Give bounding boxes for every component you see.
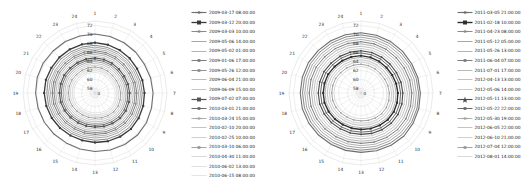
legend-item[interactable]: 2011-02-18 10:00:00 — [457, 18, 531, 28]
svg-text:3: 3 — [133, 22, 136, 27]
legend-item-label: 2010-03-01 21:00:00 — [209, 104, 255, 114]
legend-item[interactable]: 2009-05-02 01:00:00 — [191, 46, 266, 56]
svg-text:16: 16 — [301, 147, 307, 152]
legend-item[interactable]: 2011-06-04 07:00:00 — [457, 56, 531, 66]
svg-text:1: 1 — [94, 11, 97, 16]
left-chart-legend: 2009-03-17 08:00:002009-03-12 20:00:0020… — [190, 0, 266, 181]
legend-item-label: 2012-05-22 22:00:00 — [475, 104, 521, 114]
legend-item[interactable]: 2009-01-06 17:00:00 — [191, 56, 266, 66]
legend-item-label: 2009-03-12 20:00:00 — [209, 18, 255, 28]
svg-text:62: 62 — [352, 68, 358, 73]
svg-text:3: 3 — [399, 22, 402, 27]
svg-text:17: 17 — [289, 130, 295, 135]
legend-item-label: 2011-07-01 17:00:00 — [475, 66, 521, 76]
svg-text:7: 7 — [173, 91, 176, 96]
legend-item[interactable]: 2012-05-11 13:00:00 — [457, 94, 531, 104]
legend-item-label: 2010-03-10 06:00:00 — [209, 142, 255, 152]
svg-text:22: 22 — [36, 34, 42, 39]
svg-text:16: 16 — [36, 147, 42, 152]
svg-text:4: 4 — [150, 34, 153, 39]
svg-text:13: 13 — [92, 170, 98, 175]
legend-item[interactable]: 2012-04-13 13:00:00 — [457, 75, 531, 85]
legend-item[interactable]: 2009-03-03 10:00:00 — [191, 27, 266, 37]
legend-line-marker-icon — [457, 104, 473, 113]
legend-item-label: 2011-06-04 07:00:00 — [475, 56, 521, 66]
legend-item-label: 2009-03-17 08:00:00 — [209, 8, 255, 18]
legend-item-label: 2010-02-10 20:00:00 — [209, 123, 255, 133]
legend-item[interactable]: 2009-03-12 20:00:00 — [191, 18, 266, 28]
legend-item-label: 2011-02-18 10:00:00 — [475, 18, 521, 28]
legend-item[interactable]: 2009-06-09 15:00:00 — [191, 85, 266, 95]
legend-item[interactable]: 2011-07-01 17:00:00 — [457, 66, 531, 76]
legend-item-label: 2012-04-13 13:00:00 — [475, 75, 521, 85]
svg-text:10: 10 — [148, 147, 154, 152]
legend-item-label: 2011-05-12 05:00:00 — [475, 37, 521, 47]
legend-item[interactable]: 2011-03-05 21:00:00 — [457, 8, 531, 18]
svg-text:66: 66 — [87, 50, 93, 55]
svg-text:11: 11 — [132, 159, 138, 164]
svg-text:9: 9 — [162, 130, 165, 135]
legend-item[interactable]: 2009-07-02 07:00:00 — [191, 94, 266, 104]
legend-item-label: 2010-02-25 10:00:00 — [209, 133, 255, 143]
svg-text:21: 21 — [289, 51, 295, 56]
legend-item[interactable]: 2010-04-30 11:00:00 — [191, 152, 266, 162]
svg-text:14: 14 — [72, 167, 78, 172]
legend-item[interactable]: 2010-02-10 20:00:00 — [191, 123, 266, 133]
svg-text:6: 6 — [170, 70, 173, 75]
legend-item[interactable]: 2011-04-23 08:00:00 — [457, 27, 531, 37]
legend-item[interactable]: 2012-06-10 21:00:00 — [457, 133, 531, 143]
legend-line-marker-icon — [457, 152, 473, 161]
legend-item[interactable]: 2010-06-15 08:00:00 — [191, 171, 266, 181]
svg-text:5: 5 — [428, 51, 431, 56]
svg-text:7: 7 — [439, 91, 442, 96]
svg-text:1: 1 — [359, 11, 362, 16]
legend-item-label: 2011-05-26 13:00:00 — [475, 46, 521, 56]
svg-text:58: 58 — [87, 86, 93, 91]
svg-text:72: 72 — [352, 23, 358, 28]
legend-line-marker-icon — [191, 95, 207, 104]
legend-item[interactable]: 2009-06-04 21:00:00 — [191, 75, 266, 85]
legend-item[interactable]: 2011-05-26 13:00:00 — [457, 46, 531, 56]
svg-text:13: 13 — [358, 170, 364, 175]
legend-item-label: 2011-04-23 08:00:00 — [475, 27, 521, 37]
legend-item[interactable]: 2012-05-06 14:00:00 — [457, 85, 531, 95]
legend-item[interactable]: 2011-05-12 05:00:00 — [457, 37, 531, 47]
svg-text:72: 72 — [87, 23, 93, 28]
legend-item-label: 2009-06-04 21:00:00 — [209, 75, 255, 85]
svg-text:9: 9 — [428, 130, 431, 135]
svg-text:19: 19 — [278, 91, 284, 96]
right-polar-panel: 5860626466687072012345678910111213141516… — [266, 0, 531, 190]
legend-line-marker-icon — [457, 37, 473, 46]
svg-text:23: 23 — [318, 22, 324, 27]
legend-line-marker-icon — [191, 56, 207, 65]
legend-item[interactable]: 2009-03-17 08:00:00 — [191, 8, 266, 18]
legend-item[interactable]: 2010-03-10 06:00:00 — [191, 142, 266, 152]
legend-item[interactable]: 2012-05-22 22:00:00 — [457, 104, 531, 114]
svg-text:14: 14 — [337, 167, 343, 172]
legend-item-label: 2009-01-06 17:00:00 — [209, 56, 255, 66]
legend-item[interactable]: 2012-06-05 22:00:00 — [457, 123, 531, 133]
legend-item[interactable]: 2009-05-26 12:00:00 — [191, 66, 266, 76]
svg-text:11: 11 — [397, 159, 403, 164]
legend-item[interactable]: 2012-07-04 12:00:00 — [457, 142, 531, 152]
legend-item[interactable]: 2010-03-01 21:00:00 — [191, 104, 266, 114]
svg-text:10: 10 — [414, 147, 420, 152]
svg-text:58: 58 — [352, 86, 358, 91]
legend-line-marker-icon — [457, 123, 473, 132]
legend-line-marker-icon — [457, 47, 473, 56]
legend-item[interactable]: 2012-08-01 14:00:00 — [457, 152, 531, 162]
legend-line-marker-icon — [191, 37, 207, 46]
svg-text:70: 70 — [352, 32, 358, 37]
legend-line-marker-icon — [457, 114, 473, 123]
legend-line-marker-icon — [457, 95, 473, 104]
legend-item[interactable]: 2010-03-24 15:00:00 — [191, 114, 266, 124]
legend-item[interactable]: 2010-06-02 13:00:00 — [191, 162, 266, 172]
svg-text:4: 4 — [415, 34, 418, 39]
svg-text:68: 68 — [87, 41, 93, 46]
svg-text:5: 5 — [162, 51, 165, 56]
legend-item[interactable]: 2012-05-30 19:00:00 — [457, 114, 531, 124]
legend-item[interactable]: 2009-05-06 14:00:00 — [191, 37, 266, 47]
legend-item-label: 2010-04-30 11:00:00 — [209, 152, 255, 162]
legend-item-label: 2009-03-03 10:00:00 — [209, 27, 255, 37]
legend-item[interactable]: 2010-02-25 10:00:00 — [191, 133, 266, 143]
